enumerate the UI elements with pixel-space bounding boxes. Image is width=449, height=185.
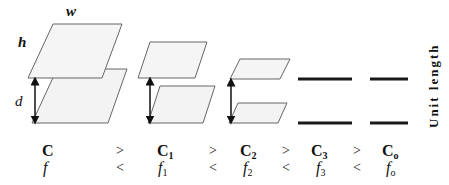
less-than-op: < (209, 161, 217, 175)
line-pair-co (370, 79, 408, 123)
distance-label: d (15, 94, 23, 109)
plate-pair-c1 (138, 42, 215, 123)
width-label: w (66, 4, 76, 19)
upper-plate (230, 59, 290, 79)
frequency-f: f (43, 160, 47, 176)
height-label: h (18, 35, 26, 50)
less-than-op: < (282, 161, 290, 175)
unit-length-label: Unit length (426, 44, 442, 128)
plate-pair-c (28, 24, 127, 123)
lower-plate (148, 86, 215, 123)
greater-than-op: > (353, 144, 361, 158)
greater-than-op: > (209, 144, 217, 158)
frequency-f2: f2 (243, 160, 252, 178)
frequency-fo: fo (386, 160, 395, 178)
lower-plate (229, 103, 287, 123)
frequency-f3: f3 (316, 160, 325, 178)
frequency-f1: f1 (158, 160, 167, 178)
less-than-op: < (353, 161, 361, 175)
upper-plate (138, 42, 207, 78)
capacitance-c: C (42, 143, 54, 159)
plate-pair-c2 (229, 59, 290, 123)
greater-than-op: > (282, 144, 290, 158)
less-than-op: < (116, 161, 124, 175)
line-pair-c3 (298, 79, 352, 123)
greater-than-op: > (116, 144, 124, 158)
